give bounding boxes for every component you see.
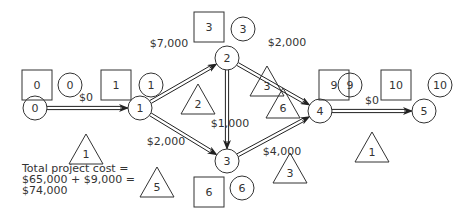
latest-time-circle-2: 3 bbox=[231, 17, 255, 41]
square-label: 1 bbox=[113, 79, 120, 92]
edge-1-3 bbox=[149, 113, 216, 155]
node-label: 4 bbox=[317, 105, 324, 118]
edge-1-2 bbox=[150, 64, 217, 103]
earliest-time-square-2: 3 bbox=[194, 12, 224, 42]
circle-label: 9 bbox=[347, 79, 354, 92]
total-line-3: $74,000 bbox=[22, 185, 135, 196]
duration-label: 1 bbox=[369, 146, 376, 159]
duration-triangle: 2 bbox=[181, 84, 215, 114]
earliest-time-square-5: 10 bbox=[381, 70, 411, 100]
latest-time-circle-4: 9 bbox=[338, 73, 362, 97]
duration-label: 6 bbox=[280, 102, 287, 115]
square-label: 3 bbox=[206, 21, 213, 34]
circle-label: 3 bbox=[240, 23, 247, 36]
edge-cost-label: $2,000 bbox=[147, 135, 186, 148]
node-label: 0 bbox=[32, 102, 39, 115]
node-label: 2 bbox=[224, 52, 231, 65]
duration-label: 3 bbox=[264, 80, 271, 93]
edge-cost-label: $0 bbox=[79, 91, 93, 104]
edge-line bbox=[151, 68, 212, 103]
edge-2-3 bbox=[225, 70, 228, 149]
node-5: 5 bbox=[412, 99, 436, 123]
duration-triangle: 1 bbox=[355, 132, 389, 162]
node-3: 3 bbox=[215, 149, 239, 173]
node-label: 5 bbox=[421, 105, 428, 118]
edge-2-4 bbox=[237, 63, 310, 106]
square-label: 9 bbox=[331, 79, 338, 92]
duration-triangle: 5 bbox=[140, 167, 174, 197]
edge-cost-label: $2,000 bbox=[268, 36, 307, 49]
duration-label: 1 bbox=[83, 148, 90, 161]
circle-label: 1 bbox=[148, 79, 155, 92]
edge-cost-label: $1,000 bbox=[211, 117, 250, 130]
latest-time-circle-5: 10 bbox=[428, 73, 452, 97]
earliest-time-square-0: 0 bbox=[22, 70, 52, 100]
edge-0-1 bbox=[47, 106, 128, 109]
node-2: 2 bbox=[215, 46, 239, 70]
circle-label: 6 bbox=[239, 182, 246, 195]
earliest-time-square-1: 1 bbox=[101, 70, 131, 100]
edge-line bbox=[150, 66, 211, 101]
edge-cost-label: $7,000 bbox=[150, 37, 189, 50]
node-label: 3 bbox=[224, 155, 231, 168]
square-label: 0 bbox=[34, 79, 41, 92]
duration-label: 3 bbox=[287, 167, 294, 180]
duration-triangle: 1 bbox=[69, 134, 103, 164]
earliest-time-square-3: 6 bbox=[194, 177, 224, 207]
edge-4-5 bbox=[332, 109, 412, 112]
latest-time-circle-0: 0 bbox=[58, 73, 82, 97]
duration-label: 2 bbox=[195, 98, 202, 111]
node-4: 4 bbox=[308, 99, 332, 123]
circle-label: 10 bbox=[433, 79, 447, 92]
square-label: 10 bbox=[389, 79, 403, 92]
duration-triangle: 3 bbox=[250, 66, 284, 96]
total-project-cost: Total project cost = $65,000 + $9,000 = … bbox=[22, 163, 135, 196]
latest-time-circle-3: 6 bbox=[230, 176, 254, 200]
edge-cost-label: $4,000 bbox=[263, 145, 302, 158]
node-1: 1 bbox=[128, 96, 152, 120]
duration-triangle: 6 bbox=[266, 88, 300, 118]
latest-time-circle-1: 1 bbox=[139, 73, 163, 97]
node-label: 1 bbox=[137, 102, 144, 115]
duration-label: 5 bbox=[154, 181, 161, 194]
edge-line bbox=[238, 63, 305, 101]
square-label: 6 bbox=[206, 186, 213, 199]
edge-cost-label: $0 bbox=[365, 94, 379, 107]
circle-label: 0 bbox=[67, 79, 74, 92]
